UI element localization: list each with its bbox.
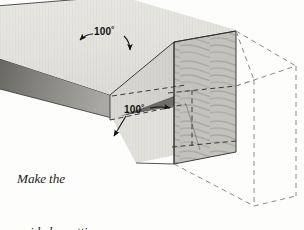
caption-line-2: guide by cutting bbox=[17, 223, 207, 230]
angle-label-bottom: 100˚ bbox=[124, 104, 145, 115]
top-angle-leader-right bbox=[124, 36, 130, 50]
top-angle-leader-left bbox=[80, 34, 93, 40]
caption-block: Make the guide by cutting an L-shaped bl… bbox=[17, 134, 207, 230]
bottom-angle-leader-right bbox=[150, 107, 170, 108]
angle-label-top: 100˚ bbox=[94, 26, 115, 37]
caption-line-1: Make the bbox=[17, 170, 207, 188]
bottom-angle-leader-left bbox=[114, 116, 126, 136]
woodworking-diagram: 100˚ 100˚ Make the guide by cutting an L… bbox=[0, 0, 304, 230]
